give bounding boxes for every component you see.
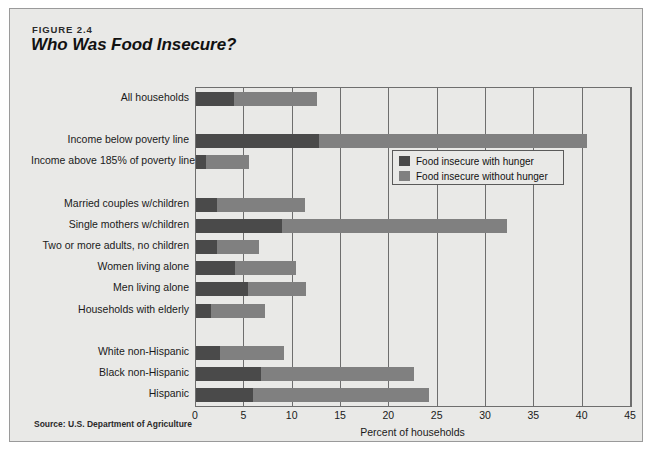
bar-segment-with-hunger	[196, 219, 282, 233]
bar-segment-with-hunger	[196, 155, 206, 169]
chart-plot-area	[195, 87, 632, 407]
category-label: Households with elderly	[31, 303, 189, 315]
legend-label: Food insecure without hunger	[416, 171, 548, 182]
bar-segment-with-hunger	[196, 388, 253, 402]
bar-row	[196, 304, 631, 318]
figure-number: FIGURE 2.4	[32, 24, 93, 35]
bar-segment-without-hunger	[206, 155, 250, 169]
x-tick-label: 20	[382, 409, 394, 421]
bar-segment-without-hunger	[319, 134, 588, 148]
bar-segment-with-hunger	[196, 261, 235, 275]
legend-item: Food insecure with hunger	[399, 154, 563, 168]
x-tick-label: 5	[240, 409, 246, 421]
bar-segment-without-hunger	[235, 261, 296, 275]
category-label: Income above 185% of poverty line	[31, 154, 189, 166]
bar-segment-without-hunger	[248, 282, 306, 296]
x-tick-label: 10	[286, 409, 298, 421]
bar-row	[196, 261, 631, 275]
bar-row	[196, 346, 631, 360]
x-tick-label: 30	[479, 409, 491, 421]
bar-row	[196, 240, 631, 254]
category-label: All households	[31, 91, 189, 103]
x-tick-label: 0	[192, 409, 198, 421]
bar-segment-with-hunger	[196, 367, 261, 381]
legend-item: Food insecure without hunger	[399, 169, 563, 183]
bar-row	[196, 282, 631, 296]
category-label: Married couples w/children	[31, 197, 189, 209]
category-label: Black non-Hispanic	[31, 366, 189, 378]
category-label: White non-Hispanic	[31, 345, 189, 357]
bar-segment-with-hunger	[196, 92, 234, 106]
category-label: Women living alone	[31, 260, 189, 272]
category-label: Men living alone	[31, 281, 189, 293]
bar-row	[196, 134, 631, 148]
category-axis-labels: All householdsIncome below poverty lineI…	[30, 87, 189, 405]
page-title: Who Was Food Insecure?	[31, 35, 236, 55]
bar-row	[196, 388, 631, 402]
bar-segment-with-hunger	[196, 198, 217, 212]
x-tick-label: 40	[576, 409, 588, 421]
bar-segment-with-hunger	[196, 346, 220, 360]
legend-label: Food insecure with hunger	[416, 156, 534, 167]
bar-row	[196, 198, 631, 212]
bar-segment-with-hunger	[196, 304, 211, 318]
category-label: Hispanic	[31, 387, 189, 399]
figure-card: FIGURE 2.4 Who Was Food Insecure? All ho…	[9, 8, 643, 442]
bar-row	[196, 219, 631, 233]
category-label: Income below poverty line	[31, 133, 189, 145]
legend-swatch-without-hunger	[399, 171, 410, 181]
x-tick-label: 15	[334, 409, 346, 421]
x-tick-label: 35	[527, 409, 539, 421]
x-tick-label: 45	[624, 409, 636, 421]
x-axis-title: Percent of households	[195, 426, 630, 438]
bar-segment-without-hunger	[220, 346, 284, 360]
bar-segment-without-hunger	[211, 304, 265, 318]
bar-segment-without-hunger	[282, 219, 507, 233]
source-note: Source: U.S. Department of Agriculture	[34, 419, 192, 429]
chart-legend: Food insecure with hunger Food insecure …	[392, 150, 564, 185]
figure-page: FIGURE 2.4 Who Was Food Insecure? All ho…	[0, 0, 652, 450]
bar-row	[196, 367, 631, 381]
category-label: Two or more adults, no children	[31, 239, 189, 251]
bar-segment-without-hunger	[261, 367, 415, 381]
bar-segment-with-hunger	[196, 282, 248, 296]
bar-segment-without-hunger	[217, 240, 259, 254]
bar-segment-with-hunger	[196, 240, 217, 254]
bar-segment-with-hunger	[196, 134, 319, 148]
bar-segment-without-hunger	[234, 92, 317, 106]
bar-row	[196, 92, 631, 106]
bar-segment-without-hunger	[217, 198, 305, 212]
x-tick-label: 25	[431, 409, 443, 421]
legend-swatch-with-hunger	[399, 156, 410, 166]
category-label: Single mothers w/children	[31, 218, 189, 230]
bar-segment-without-hunger	[253, 388, 429, 402]
